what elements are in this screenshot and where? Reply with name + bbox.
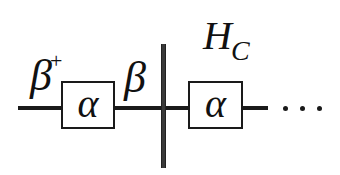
ellipsis-dot	[283, 106, 288, 111]
wire-middle	[114, 106, 190, 110]
diagram-canvas: α α β+ β HC	[0, 0, 340, 175]
alpha-box-2: α	[188, 81, 243, 129]
beta-label: β	[124, 56, 146, 100]
wire-left	[18, 106, 62, 110]
hc-subscript: C	[231, 35, 250, 66]
beta-plus-superscript: +	[50, 48, 62, 73]
wire-right	[242, 106, 268, 110]
ellipsis-dot	[317, 106, 322, 111]
beta-plus-label: β+	[30, 54, 62, 98]
alpha-box-1-label: α	[78, 84, 99, 124]
ellipsis-dot	[300, 106, 305, 111]
alpha-box-1: α	[61, 81, 115, 129]
hc-symbol: H	[203, 13, 232, 58]
cut-bar	[161, 44, 166, 168]
hc-label: HC	[203, 16, 250, 63]
beta-plus-symbol: β	[30, 51, 52, 100]
alpha-box-2-label: α	[205, 84, 226, 124]
